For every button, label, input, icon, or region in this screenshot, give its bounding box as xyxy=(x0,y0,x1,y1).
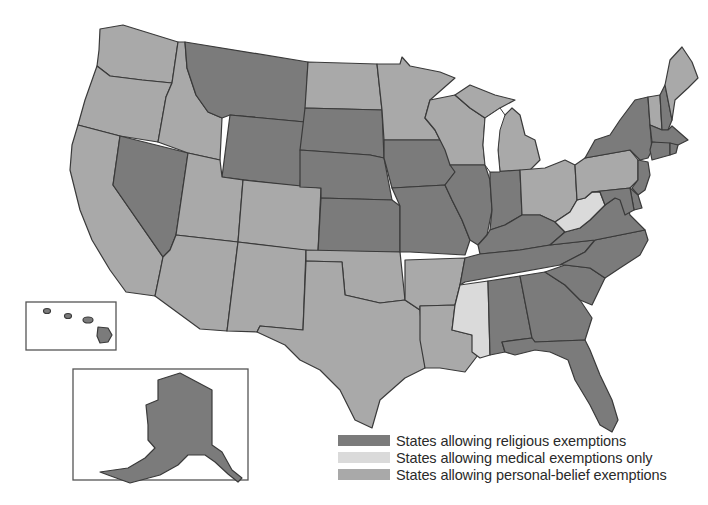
legend-swatch-personal xyxy=(338,469,390,480)
legend-item-religious: States allowing religious exemptions xyxy=(338,432,667,449)
state-CO[interactable] xyxy=(238,180,321,252)
legend-item-medical: States allowing medical exemptions only xyxy=(338,449,667,466)
us-exemptions-map xyxy=(0,0,708,505)
state-WY[interactable] xyxy=(222,115,305,187)
state-NM[interactable] xyxy=(227,242,306,332)
state-WA[interactable] xyxy=(97,25,178,83)
state-NY[interactable] xyxy=(585,97,652,160)
state-CT[interactable] xyxy=(650,142,670,160)
state-RI[interactable] xyxy=(670,143,678,155)
state-HI-oahu[interactable] xyxy=(65,314,72,319)
state-HI-kauai[interactable] xyxy=(44,309,51,314)
legend-item-personal: States allowing personal-belief exemptio… xyxy=(338,466,667,483)
state-HI-maui[interactable] xyxy=(83,317,93,323)
legend-label-medical: States allowing medical exemptions only xyxy=(396,450,652,466)
state-KS[interactable] xyxy=(318,198,400,252)
state-ME[interactable] xyxy=(665,47,698,120)
legend: States allowing religious exemptions Sta… xyxy=(338,432,667,483)
legend-label-personal: States allowing personal-belief exemptio… xyxy=(396,467,667,483)
state-ND[interactable] xyxy=(305,62,382,110)
legend-label-religious: States allowing religious exemptions xyxy=(396,433,626,449)
state-FL[interactable] xyxy=(502,338,618,432)
legend-swatch-medical xyxy=(338,452,390,463)
legend-swatch-religious xyxy=(338,435,390,446)
